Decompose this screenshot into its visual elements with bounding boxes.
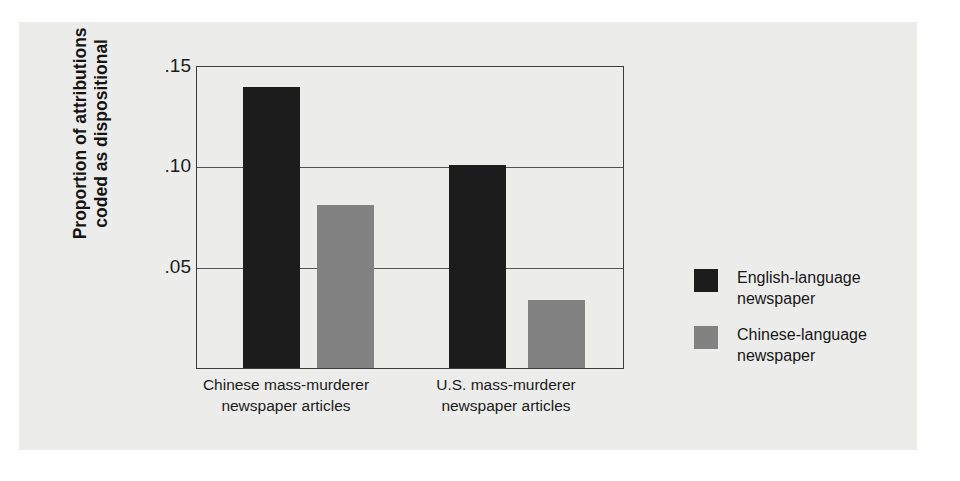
chart-figure: Proportion of attributions coded as disp… bbox=[19, 22, 917, 450]
chart-legend: English-language newspaper Chinese-langu… bbox=[694, 267, 909, 381]
x-category-label-us-articles: U.S. mass-murderer newspaper articles bbox=[416, 374, 596, 417]
legend-label-chinese-newspaper: Chinese-language newspaper bbox=[737, 324, 867, 366]
legend-entry-english-newspaper: English-language newspaper bbox=[694, 267, 909, 309]
x-category-label-chinese-articles: Chinese mass-murderer newspaper articles bbox=[196, 374, 376, 417]
y-tick-label-15: .15 bbox=[165, 55, 191, 77]
bar-us-articles-english-newspaper bbox=[449, 165, 506, 368]
x-category-label-chinese-articles-line-1: Chinese mass-murderer bbox=[203, 376, 369, 393]
y-axis-title: Proportion of attributions coded as disp… bbox=[70, 0, 113, 268]
bar-us-articles-chinese-newspaper bbox=[528, 300, 585, 368]
legend-swatch-chinese-newspaper bbox=[694, 326, 718, 349]
x-category-label-chinese-articles-line-2: newspaper articles bbox=[221, 397, 350, 414]
x-category-label-us-articles-line-1: U.S. mass-murderer bbox=[436, 376, 576, 393]
y-tick-label-10: .10 bbox=[165, 155, 191, 177]
bar-chinese-articles-english-newspaper bbox=[243, 87, 300, 368]
y-axis-title-line-2: coded as dispositional bbox=[91, 39, 111, 228]
legend-entry-chinese-newspaper: Chinese-language newspaper bbox=[694, 324, 909, 366]
legend-label-english-newspaper: English-language newspaper bbox=[737, 267, 861, 309]
legend-swatch-english-newspaper bbox=[694, 269, 718, 292]
x-category-label-us-articles-line-2: newspaper articles bbox=[441, 397, 570, 414]
bar-chinese-articles-chinese-newspaper bbox=[317, 205, 374, 368]
plot-area bbox=[196, 66, 624, 369]
y-tick-label-05: .05 bbox=[165, 255, 191, 277]
y-axis-title-line-1: Proportion of attributions bbox=[70, 27, 90, 239]
y-axis-tick-labels: .15 .10 .05 bbox=[137, 66, 191, 367]
